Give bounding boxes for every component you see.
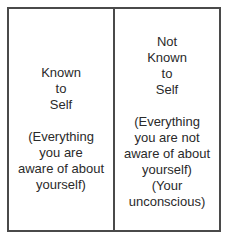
cell-description-line: aware of about (9, 161, 113, 177)
known-to-self-text: Known to Self (Everything you are aware … (9, 65, 113, 193)
cell-title-line: Not (115, 34, 219, 50)
cell-description-line: you are (9, 145, 113, 161)
spacer (115, 98, 219, 114)
spacer (9, 113, 113, 129)
cell-description-line: aware of about (115, 146, 219, 162)
cell-description-line: (Everything (115, 114, 219, 130)
cell-title-line: Known (9, 65, 113, 81)
cell-description-line: (Your (115, 178, 219, 194)
cell-title-line: Self (9, 97, 113, 113)
cell-description-line: yourself) (115, 162, 219, 178)
cell-description-line: unconscious) (115, 194, 219, 210)
cell-title-line: Self (115, 82, 219, 98)
not-known-to-self-cell: Not Known to Self (Everything you are no… (115, 9, 219, 230)
cell-title-line: to (9, 81, 113, 97)
cell-title-line: Known (115, 50, 219, 66)
cell-description-line: you are not (115, 130, 219, 146)
cell-description-line: yourself) (9, 177, 113, 193)
cell-title-line: to (115, 66, 219, 82)
self-awareness-grid: Known to Self (Everything you are aware … (7, 7, 221, 232)
not-known-to-self-text: Not Known to Self (Everything you are no… (115, 34, 219, 210)
cell-description-line: (Everything (9, 129, 113, 145)
known-to-self-cell: Known to Self (Everything you are aware … (9, 9, 115, 230)
